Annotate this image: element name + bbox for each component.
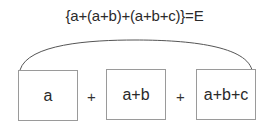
term-box-a-plus-b: a+b	[106, 69, 166, 120]
term-label: a+b	[122, 86, 149, 104]
plus-operator: +	[87, 88, 96, 105]
term-box-a-plus-b-plus-c: a+b+c	[196, 69, 256, 120]
plus-operator: +	[176, 88, 185, 105]
term-box-a: a	[18, 70, 78, 121]
term-label: a	[44, 87, 53, 105]
term-label: a+b+c	[204, 86, 248, 104]
